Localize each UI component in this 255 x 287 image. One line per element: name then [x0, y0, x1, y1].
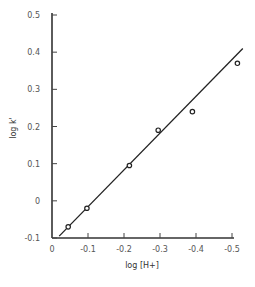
y-tick-label: 0.5	[27, 11, 40, 20]
x-tick-label: -0.2	[116, 245, 132, 254]
x-tick-label: 0	[49, 245, 54, 254]
x-tick-label: -0.4	[188, 245, 204, 254]
data-point-marker	[235, 61, 239, 65]
y-tick-label: 0.2	[27, 123, 40, 132]
axes	[52, 13, 234, 238]
y-tick-label: 0	[35, 197, 40, 206]
y-axis-title: log k'	[9, 117, 18, 139]
ticks: -0.100.10.20.30.40.50-0.1-0.2-0.3-0.4-0.…	[24, 11, 239, 254]
y-tick-label: 0.4	[27, 48, 40, 57]
x-axis-title: log [H+]	[125, 261, 159, 270]
x-tick-label: -0.3	[152, 245, 168, 254]
x-tick-label: -0.1	[80, 245, 96, 254]
chart: -0.100.10.20.30.40.50-0.1-0.2-0.3-0.4-0.…	[0, 0, 255, 287]
data-point-marker	[66, 225, 70, 229]
y-tick-label: 0.1	[27, 160, 40, 169]
data-point-marker	[127, 163, 131, 167]
data-point-marker	[190, 109, 194, 113]
data-point-marker	[156, 128, 160, 132]
x-tick-label: -0.5	[224, 245, 240, 254]
y-tick-label: -0.1	[24, 234, 40, 243]
y-tick-label: 0.3	[27, 85, 40, 94]
data-points	[66, 61, 240, 229]
data-point-marker	[85, 206, 89, 210]
